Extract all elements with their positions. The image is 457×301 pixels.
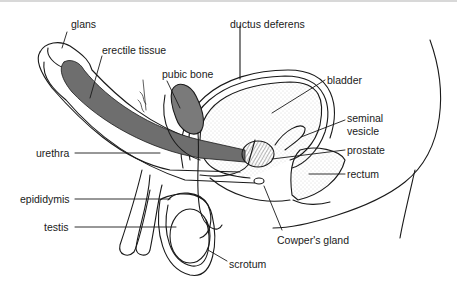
label-prostate: prostate [347,144,385,156]
label-glans: glans [71,18,96,30]
leader-glans [62,32,67,48]
label-pubic-bone: pubic bone [162,68,213,80]
label-urethra: urethra [36,147,69,159]
prostate [242,141,274,167]
label-cowpers-gland: Cowper's gland [277,234,349,246]
label-vesicle: vesicle [347,125,379,137]
thigh-front [120,170,150,255]
epididymis [168,193,211,238]
label-erectile-tissue: erectile tissue [102,44,166,56]
label-testis: testis [44,221,69,233]
label-scrotum: scrotum [229,258,266,270]
cowpers-gland [254,178,264,184]
label-ductus-deferens: ductus deferens [230,18,305,30]
label-seminal: seminal [347,112,383,124]
label-bladder: bladder [327,74,362,86]
label-rectum: rectum [347,168,379,180]
pubic-hair [138,80,146,112]
leader-scrotum [208,250,227,261]
leader-cowpers [264,186,282,230]
pubic-bone [171,84,203,134]
label-epididymis: epididymis [20,193,70,205]
